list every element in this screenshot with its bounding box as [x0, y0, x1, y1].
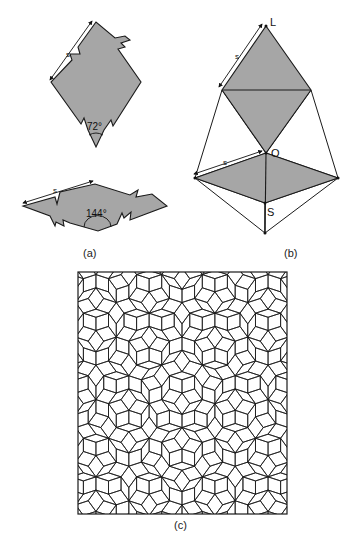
angle-label-72: 72°	[87, 121, 102, 132]
tiling-rhombi	[51, 253, 314, 539]
panel-label-c: (c)	[174, 519, 187, 531]
vertex-label-O: O	[271, 147, 280, 159]
penrose-figure: s 72° s 144° (a) s s	[0, 0, 355, 545]
panel-label-b: (b)	[284, 247, 297, 259]
vertex-label-L: L	[270, 16, 276, 28]
panel-b: s s L O S (b)	[194, 16, 340, 259]
angle-label-144: 144°	[86, 208, 107, 219]
vertex-dot	[264, 202, 267, 205]
panel-a: s 72° s 144° (a)	[23, 21, 167, 259]
edge-label-s-fat: s	[53, 186, 57, 195]
edge-label-s-b2: s	[223, 158, 227, 167]
panel-label-a: (a)	[83, 247, 96, 259]
penrose-tiling	[51, 253, 314, 539]
edge-label-s: s	[66, 50, 70, 59]
vertex-dot	[265, 25, 268, 28]
edge-label-s-b1: s	[235, 52, 239, 61]
vertex-dot	[194, 177, 197, 180]
vertex-dot	[337, 177, 340, 180]
panel-c: (c)	[51, 253, 314, 539]
vertex-dot	[264, 232, 267, 235]
vertex-label-S: S	[267, 206, 274, 218]
vertex-dot	[265, 152, 268, 155]
